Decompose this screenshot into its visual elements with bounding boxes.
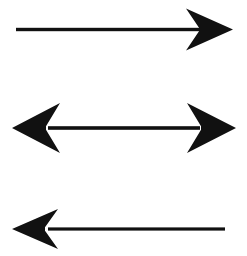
leftward-arrow-shaft [48,227,225,230]
arrow-figure [0,0,247,256]
bidirectional-arrow-shaft [48,126,200,130]
rightward-arrow-shaft [16,28,200,31]
arrow-canvas [0,0,247,256]
